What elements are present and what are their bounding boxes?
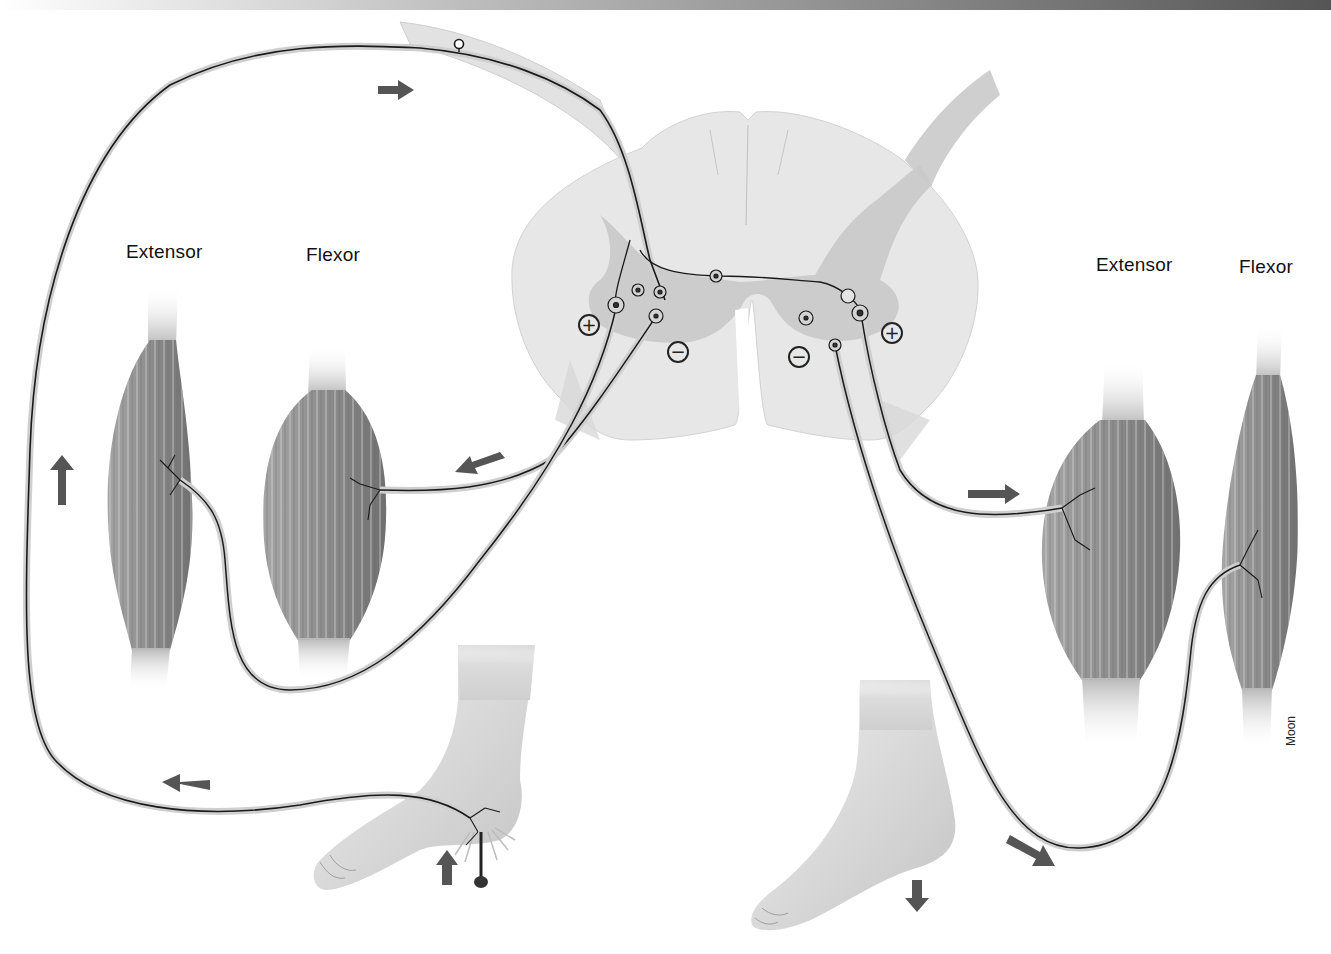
arrow-right-afferent-icon [378, 80, 414, 100]
tendon [1082, 678, 1140, 750]
arrow-foot-down-icon [905, 880, 929, 912]
arrow-foot-up-icon [436, 850, 458, 885]
right-extensor-muscle [1042, 360, 1180, 750]
leg-fade [860, 680, 932, 730]
left-flexor-label: Flexor [306, 244, 360, 266]
top-border [0, 0, 1331, 10]
right-flexor-label: Flexor [1239, 256, 1293, 278]
tendon [298, 638, 350, 680]
diagram-canvas [0, 0, 1331, 954]
muscle-fibers [263, 390, 386, 640]
right-foot [751, 680, 955, 930]
muscle-fibers [1222, 375, 1298, 690]
leg-fade [458, 645, 535, 700]
reflex-diagram: Extensor Flexor Extensor Flexor + − − + … [0, 0, 1331, 954]
illustrator-credit: Moon [1284, 716, 1298, 746]
tendon [130, 648, 170, 690]
tendon [308, 345, 346, 395]
muscle-fibers [1042, 420, 1180, 680]
arrow-up-left-icon [50, 455, 74, 505]
dorsal-root-left [400, 22, 628, 170]
tendon [1242, 688, 1272, 750]
muscle-fibers [108, 340, 193, 650]
tendon [148, 285, 178, 345]
inhibitory-sign-right: − [788, 346, 810, 368]
left-flexor-muscle [263, 345, 386, 680]
left-extensor-label: Extensor [126, 241, 203, 263]
tendon [1256, 325, 1282, 380]
inhibitory-sign-left: − [667, 341, 689, 363]
right-extensor-label: Extensor [1096, 254, 1173, 276]
excitatory-sign-left: + [578, 314, 600, 336]
arrow-to-left-flexor-icon [455, 452, 505, 474]
dorsal-root-ganglion [455, 40, 464, 49]
left-extensor-muscle [108, 285, 193, 690]
arrow-left-foot-icon [162, 774, 210, 792]
right-flexor-muscle [1222, 325, 1298, 750]
tack-head [474, 876, 488, 888]
arrow-to-right-extensor-icon [968, 484, 1020, 504]
tendon [1102, 360, 1144, 425]
spinal-cord [400, 22, 1000, 460]
excitatory-sign-right: + [881, 322, 903, 344]
